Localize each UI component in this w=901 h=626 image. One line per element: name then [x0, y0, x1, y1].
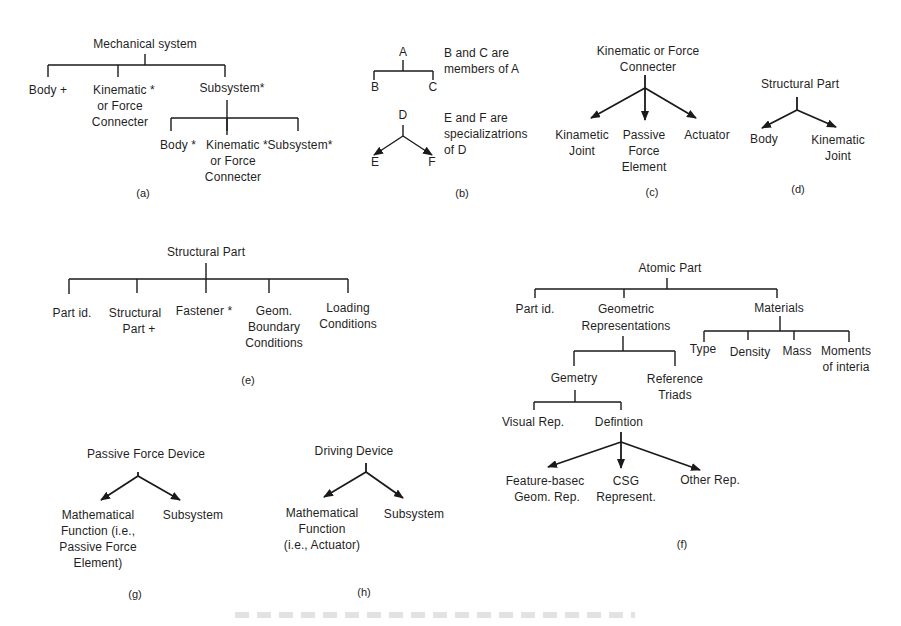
node-moments-2: of interia: [822, 359, 869, 375]
node-other-rep: Other Rep.: [680, 472, 740, 488]
cropped-figure-caption: [235, 612, 635, 618]
caption-h: (h): [357, 586, 370, 598]
node-kinematic-joint-d-2: Joint: [825, 148, 851, 164]
node-subsystem-2: Subsystem*: [267, 137, 332, 153]
node-structural-part-e: Structural Part: [167, 244, 245, 260]
node-kinematic-connecter-2b: or Force: [210, 153, 255, 169]
node-csg-1: CSG: [613, 473, 639, 489]
node-math-function-g-1: Mathematical: [62, 507, 135, 523]
node-mass: Mass: [782, 343, 811, 359]
caption-f: (f): [677, 538, 687, 550]
panel-f-arrows: [548, 432, 700, 470]
node-csg-2: Represent.: [596, 489, 656, 505]
node-moments-1: Moments: [821, 343, 871, 359]
node-loading-conditions-2: Conditions: [319, 316, 377, 332]
node-math-function-g-4: Element): [74, 555, 123, 571]
node-e: E: [371, 154, 379, 170]
panel-d-lines: [762, 97, 836, 128]
node-feature-based-1: Feature-basec: [506, 473, 585, 489]
node-reference-triads-2: Triads: [658, 387, 692, 403]
node-loading-conditions-1: Loading: [326, 300, 369, 316]
panel-g-lines: [101, 472, 180, 500]
node-kinematic-connecter-2: Kinematic *: [206, 137, 268, 153]
node-math-function-g-3: Passive Force: [59, 539, 136, 555]
node-mechanical-system: Mechanical system: [93, 36, 197, 52]
node-body-2: Body *: [160, 137, 196, 153]
node-subsystem-h: Subsystem: [384, 506, 444, 522]
node-body-d: Body: [750, 131, 778, 147]
note-members-1: B and C are: [444, 45, 509, 61]
node-b: B: [371, 79, 379, 95]
note-spec-1: E and F are: [444, 110, 508, 126]
caption-c: (c): [646, 186, 659, 198]
node-geometric-rep-1: Geometric: [598, 301, 654, 317]
node-geom-boundary-1: Geom.: [256, 303, 293, 319]
node-kinametic-joint-2: Joint: [569, 143, 595, 159]
node-passive-force-device: Passive Force Device: [87, 446, 205, 462]
panel-c-lines: [591, 75, 696, 120]
node-body: Body +: [29, 82, 67, 98]
node-math-function-h-1: Mathematical: [286, 505, 359, 521]
panel-e-lines: [69, 263, 348, 294]
node-kinematic-connecter-1: Kinematic *: [93, 82, 155, 98]
node-type: Type: [690, 341, 716, 357]
node-atomic-part: Atomic Part: [638, 260, 701, 276]
node-subsystem: Subsystem*: [199, 80, 264, 96]
node-actuator: Actuator: [684, 127, 730, 143]
node-reference-triads-1: Reference: [647, 371, 703, 387]
node-a: A: [399, 44, 407, 60]
node-kinematic-or-force-2: Connecter: [620, 59, 676, 75]
caption-a: (a): [136, 187, 149, 199]
note-spec-3: of D: [444, 142, 466, 158]
node-geometric-rep-2: Representations: [582, 318, 671, 334]
node-f: F: [428, 154, 435, 170]
node-kinametic-joint-1: Kinametic: [555, 127, 609, 143]
panel-h-lines: [324, 463, 403, 498]
caption-b: (b): [455, 187, 468, 199]
node-geom-boundary-3: Conditions: [245, 335, 303, 351]
node-visual-rep: Visual Rep.: [502, 414, 564, 430]
node-passive-force-2: Force: [628, 143, 659, 159]
node-math-function-h-2: Function: [299, 521, 346, 537]
node-kinematic-connecter-1c: Connecter: [92, 114, 148, 130]
node-d: D: [399, 107, 408, 123]
node-fastener: Fastener *: [176, 303, 232, 319]
node-passive-force-3: Element: [622, 159, 667, 175]
node-feature-based-2: Geom. Rep.: [514, 489, 580, 505]
node-density: Density: [730, 344, 771, 360]
node-gemetry: Gemetry: [551, 370, 598, 386]
node-part-id-e: Part id.: [53, 305, 92, 321]
node-structural-part-child-2: Part +: [123, 321, 156, 337]
node-c: C: [429, 79, 438, 95]
node-math-function-g-2: Function (i.e.,: [61, 523, 135, 539]
node-defintion: Defintion: [595, 414, 643, 430]
node-materials: Materials: [754, 300, 804, 316]
node-passive-force-1: Passive: [623, 127, 666, 143]
caption-d: (d): [791, 183, 804, 195]
node-math-function-h-3: (i.e., Actuator): [284, 537, 360, 553]
node-subsystem-g: Subsystem: [163, 507, 223, 523]
node-kinematic-joint-d-1: Kinematic: [811, 132, 865, 148]
note-spec-2: specializatrions: [444, 126, 528, 142]
node-structural-part-d: Structural Part: [761, 76, 839, 92]
node-part-id-f: Part id.: [516, 301, 555, 317]
node-structural-part-child-1: Structural: [109, 305, 161, 321]
node-kinematic-connecter-2c: Connecter: [205, 169, 261, 185]
caption-g: (g): [128, 588, 141, 600]
node-kinematic-or-force-1: Kinematic or Force: [597, 43, 700, 59]
note-members-2: members of A: [444, 61, 519, 77]
caption-e: (e): [241, 374, 254, 386]
node-driving-device: Driving Device: [315, 443, 394, 459]
node-geom-boundary-2: Boundary: [248, 319, 300, 335]
node-kinematic-connecter-1b: or Force: [97, 98, 142, 114]
